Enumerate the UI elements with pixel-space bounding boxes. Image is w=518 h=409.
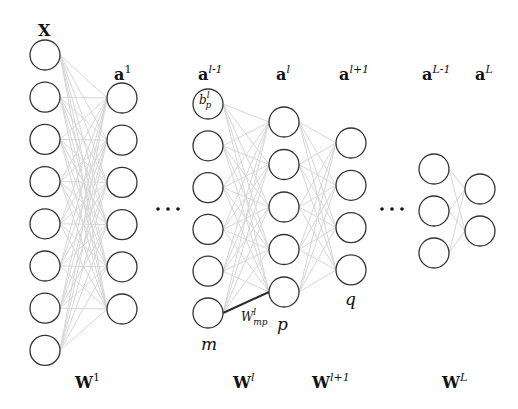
ellipsis-dot [390, 207, 394, 211]
edge-w1 [60, 97, 107, 98]
neuron-aL-1-2 [419, 196, 449, 226]
edge-wl-plus-1 [299, 122, 336, 143]
weight-label-w1: W1 [74, 371, 100, 392]
edge-wl-plus-1 [299, 143, 336, 250]
edge-wl-plus-1 [299, 270, 336, 292]
edge-weight-label: Wlmp [241, 307, 268, 327]
neuron-X-3 [30, 124, 60, 154]
layer-label-x: X [38, 21, 51, 40]
neuron-a1-5 [107, 252, 137, 282]
layer-label-aL-minus-1: aL-1 [422, 63, 450, 84]
edge-w1 [60, 140, 107, 350]
neuron-al-2 [269, 150, 299, 180]
weight-label-wl: Wl [232, 371, 255, 392]
neuron-a1-6 [107, 294, 137, 324]
ellipsis-dot [400, 207, 404, 211]
neuron-al+1-1 [336, 128, 366, 158]
edge-wl [223, 122, 269, 229]
layer-label-al-minus-1: al-1 [198, 63, 223, 84]
node-label-m: m [201, 334, 217, 354]
neural-network-diagram: X a1 al-1 al al+1 aL-1 aL blp m p q Wlmp… [0, 0, 518, 409]
weight-label-wl-plus-1: Wl+1 [311, 371, 350, 392]
neuron-aL-1-3 [419, 238, 449, 268]
neuron-al-3 [269, 192, 299, 222]
edge-wl [223, 122, 269, 313]
neuron-X-7 [30, 293, 60, 323]
ellipsis-1 [156, 207, 180, 211]
neuron-X-4 [30, 167, 60, 197]
neuron-a1-4 [107, 210, 137, 240]
neuron-aL-1 [465, 174, 495, 204]
neuron-X-5 [30, 209, 60, 239]
neuron-X-1 [30, 40, 60, 70]
neuron-aL-2 [465, 216, 495, 246]
weight-label-wL: WL [441, 371, 467, 392]
ellipsis-dot [156, 207, 160, 211]
edge-wl-plus-1 [299, 185, 336, 292]
neuron-a1-2 [107, 125, 137, 155]
node-label-q: q [345, 289, 356, 309]
neuron-X-8 [30, 335, 60, 365]
node-label-p: p [277, 314, 288, 334]
neuron-al-1-5 [193, 256, 223, 286]
neuron-al-1-2 [193, 131, 223, 161]
neuron-al-4 [269, 235, 299, 265]
neuron-al-5 [269, 277, 299, 307]
layer-label-al: al [276, 63, 290, 84]
neuron-al+1-2 [336, 170, 366, 200]
edge-wl [223, 207, 269, 313]
neuron-aL-1-1 [419, 154, 449, 184]
neuron-al-1-3 [193, 173, 223, 203]
neuron-al-1-6 [193, 298, 223, 328]
ellipsis-dot [176, 207, 180, 211]
neuron-X-6 [30, 251, 60, 281]
neuron-a1-3 [107, 167, 137, 197]
ellipsis-dot [166, 207, 170, 211]
layer-label-a1: a1 [114, 63, 131, 84]
neuron-al-1-4 [193, 214, 223, 244]
ellipsis-2 [380, 207, 404, 211]
neuron-X-2 [30, 82, 60, 112]
neuron-al+1-3 [336, 213, 366, 243]
neuron-al+1-4 [336, 255, 366, 285]
neuron-a1-1 [107, 83, 137, 113]
neuron-al-1 [269, 107, 299, 137]
layer-label-al-plus-1: al+1 [339, 63, 369, 84]
ellipsis-dot [380, 207, 384, 211]
layer-label-aL: aL [475, 63, 493, 84]
